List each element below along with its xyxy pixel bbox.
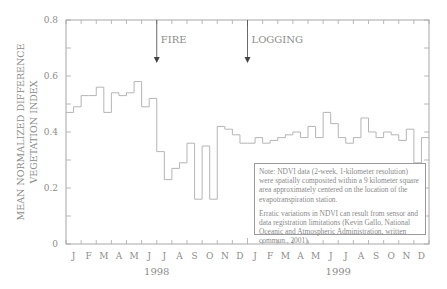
y-tick-label: 0 xyxy=(52,239,58,249)
y-tick-label: 0.8 xyxy=(44,15,59,25)
y-axis-title: VEGETATION INDEX xyxy=(28,80,39,184)
arrow-down-icon xyxy=(154,57,160,63)
y-tick-label: 0.2 xyxy=(44,183,58,193)
month-label: J xyxy=(71,251,76,261)
month-label: J xyxy=(146,251,151,261)
event-annotations: FIRELOGGING xyxy=(154,20,303,63)
month-label: A xyxy=(296,251,304,261)
month-label: F xyxy=(267,251,273,261)
month-label: J xyxy=(328,251,333,261)
chart-note-box: Note: NDVI data (2-week, 1-kilometer res… xyxy=(254,163,426,235)
month-label: N xyxy=(221,251,229,261)
y-axis-title: MEAN NORMALIZED DIFFERENCE xyxy=(15,43,26,220)
month-label: M xyxy=(281,251,290,261)
year-label: 1998 xyxy=(144,266,169,277)
month-label: S xyxy=(191,251,197,261)
month-label: A xyxy=(175,251,183,261)
logging-label: LOGGING xyxy=(252,34,304,45)
month-label: J xyxy=(343,251,348,261)
arrow-down-icon xyxy=(245,57,251,63)
fire-label: FIRE xyxy=(161,34,187,45)
note-ndvi-compositing: Note: NDVI data (2-week, 1-kilometer res… xyxy=(259,167,422,204)
y-tick-label: 0.6 xyxy=(44,71,59,81)
ndvi-chart: FIRELOGGING 00.20.40.60.8JFMAMJJASONDJFM… xyxy=(0,0,447,289)
month-label: O xyxy=(206,251,213,261)
month-label: A xyxy=(115,251,123,261)
month-label: M xyxy=(129,251,138,261)
month-label: M xyxy=(311,251,320,261)
month-label: O xyxy=(387,251,394,261)
month-label: F xyxy=(86,251,92,261)
month-label: D xyxy=(418,251,425,261)
year-label: 1999 xyxy=(326,266,351,277)
month-label: N xyxy=(402,251,410,261)
y-tick-label: 0.4 xyxy=(44,127,59,137)
month-label: M xyxy=(99,251,108,261)
month-label: J xyxy=(162,251,167,261)
month-label: D xyxy=(236,251,243,261)
month-label: J xyxy=(252,251,257,261)
month-label: A xyxy=(357,251,365,261)
note-erratic-variations: Erratic variations in NDVI can result fr… xyxy=(259,209,422,246)
month-label: S xyxy=(373,251,379,261)
